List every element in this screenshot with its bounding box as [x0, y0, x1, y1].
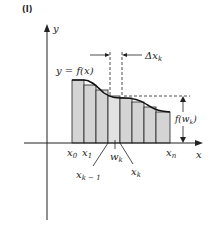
- tick-x0: x0: [67, 147, 78, 160]
- tick-xk: xk: [131, 166, 141, 179]
- delta-x-label: Δxk: [144, 50, 162, 63]
- xk1-leader: [93, 143, 108, 166]
- arrow-down-icon: [180, 137, 186, 143]
- y-axis-label: y: [52, 23, 59, 34]
- x-axis-label: x: [196, 149, 202, 160]
- tick-xk-1: xk − 1: [76, 169, 101, 182]
- x-axis-arrow-icon: [195, 140, 203, 146]
- riemann-sum-diagram: (I) y x y = f(x) Δxk f(wk) x0 x1 wk xn: [0, 0, 216, 229]
- panel-label: (I): [22, 5, 32, 14]
- arrow-right-icon: [105, 53, 110, 57]
- tick-x1: x1: [82, 147, 92, 160]
- tick-xn: xn: [166, 147, 177, 160]
- height-label: f(wk): [174, 114, 197, 125]
- arrow-up-icon: [180, 96, 186, 102]
- arrow-left-icon: [122, 53, 127, 57]
- curve-label: y = f(x): [55, 65, 94, 76]
- y-axis-arrow-icon: [44, 24, 50, 32]
- riemann-bars: [72, 80, 170, 143]
- tick-wk: wk: [110, 151, 123, 164]
